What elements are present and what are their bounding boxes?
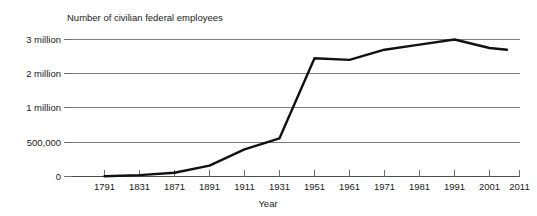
y-tick-label-1-million: 1 million [26, 102, 61, 113]
chart-container: Number of civilian federal employees 3 m… [0, 0, 537, 216]
x-tick-label-1981: 1981 [409, 181, 430, 192]
gridlines [72, 40, 520, 143]
x-tick-label-1991: 1991 [444, 181, 465, 192]
y-tick-dashes [64, 40, 72, 177]
x-tick-label-1871: 1871 [164, 181, 185, 192]
x-tick-label-1911: 1911 [234, 181, 254, 192]
x-tick-label-1831: 1831 [129, 181, 150, 192]
x-tick-label-2011: 2011 [509, 181, 529, 192]
y-tick-label-2-million: 2 million [26, 68, 61, 79]
chart-title: Number of civilian federal employees [67, 12, 223, 23]
x-tick-label-1961: 1961 [339, 181, 360, 192]
x-tick-label-1931: 1931 [269, 181, 290, 192]
line-chart: Number of civilian federal employees 3 m… [0, 0, 537, 216]
x-tick-label-1971: 1971 [374, 181, 395, 192]
y-axis-tick-labels: 3 million 2 million 1 million 500,000 0 [26, 34, 61, 182]
x-axis-tick-labels: 1791 1831 1871 1891 1911 1931 1951 1961 … [94, 181, 530, 192]
y-tick-label-3-million: 3 million [26, 34, 61, 45]
x-tick-label-2001: 2001 [479, 181, 500, 192]
x-tick-label-1891: 1891 [199, 181, 220, 192]
y-tick-label-zero: 0 [56, 171, 61, 182]
y-tick-label-500000: 500,000 [27, 137, 61, 148]
x-tick-label-1791: 1791 [94, 181, 115, 192]
x-axis-label: Year [258, 198, 277, 209]
x-tick-label-1951: 1951 [304, 181, 325, 192]
